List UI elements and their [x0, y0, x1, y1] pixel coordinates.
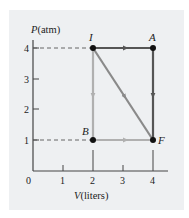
point-F	[150, 137, 156, 143]
ytick-3: 3	[24, 74, 29, 85]
label-A: A	[148, 31, 156, 43]
xtick-4: 4	[150, 175, 155, 186]
pv-diagram: I A B F 1 2 3 4 0 1 2 3 4 P(atm) V(liter…	[0, 0, 189, 218]
ytick-4: 4	[24, 43, 29, 54]
label-I: I	[88, 31, 94, 43]
x-axis-title: V(liters)	[74, 190, 109, 202]
xtick-1: 1	[60, 175, 65, 186]
label-B: B	[82, 125, 89, 137]
point-I	[90, 45, 96, 51]
y-ticks	[33, 48, 39, 140]
xtick-3: 3	[120, 175, 125, 186]
xtick-2: 2	[90, 175, 95, 186]
ytick-1: 1	[24, 135, 29, 146]
point-B	[90, 137, 96, 143]
label-F: F	[157, 134, 165, 146]
point-A	[150, 45, 156, 51]
y-axis-title: P(atm)	[30, 24, 61, 36]
arrow-I-F	[121, 91, 125, 97]
x-ticks	[63, 150, 153, 171]
ytick-2: 2	[24, 104, 29, 115]
xtick-0: 0	[26, 175, 31, 186]
